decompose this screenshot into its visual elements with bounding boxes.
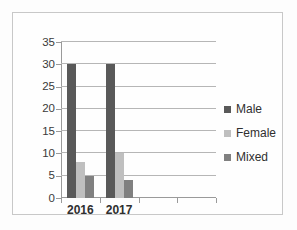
bars-layer [61, 42, 216, 198]
y-axis-tick-5 [56, 176, 61, 177]
legend-label: Female [236, 127, 276, 139]
bar-female-2016[interactable] [76, 162, 85, 198]
y-axis-tick-30 [56, 64, 61, 65]
bar-group [61, 42, 100, 198]
y-axis-label-0: 0 [29, 193, 55, 205]
legend-swatch-female-icon [224, 130, 231, 137]
y-axis-label-20: 20 [29, 103, 55, 115]
y-axis-label-35: 35 [29, 37, 55, 49]
bar-group [177, 42, 216, 198]
bar-male-2016[interactable] [67, 64, 76, 198]
x-axis-tick-3 [177, 198, 178, 203]
legend-item-male[interactable]: Male [224, 97, 290, 121]
y-axis-tick-20 [56, 109, 61, 110]
y-axis-tick-10 [56, 153, 61, 154]
x-axis-tick-2 [139, 198, 140, 203]
plot-area [61, 42, 216, 198]
screenshot-canvas: 05101520253035 20162017 MaleFemaleMixed [0, 0, 297, 230]
x-axis-tick-1 [100, 198, 101, 203]
bar-mixed-2016[interactable] [85, 176, 94, 198]
legend-swatch-mixed-icon [224, 154, 231, 161]
legend-item-female[interactable]: Female [224, 121, 290, 145]
x-axis-label-2017: 2017 [100, 204, 139, 217]
legend-label: Male [236, 103, 262, 115]
x-axis-tick-0 [61, 198, 62, 203]
x-axis-label-2016: 2016 [61, 204, 100, 217]
y-axis-label-10: 10 [29, 148, 55, 160]
chart-legend: MaleFemaleMixed [224, 97, 290, 169]
y-axis-tick-15 [56, 131, 61, 132]
legend-label: Mixed [236, 151, 268, 163]
y-axis-tick-0 [56, 198, 61, 199]
legend-swatch-male-icon [224, 106, 231, 113]
y-axis-tick-35 [56, 42, 61, 43]
y-axis-label-30: 30 [29, 59, 55, 71]
y-axis-tick-25 [56, 87, 61, 88]
x-axis-labels: 20162017 [61, 204, 217, 224]
y-axis-labels: 05101520253035 [25, 42, 55, 198]
y-axis-label-5: 5 [29, 170, 55, 182]
bar-mixed-2017[interactable] [124, 180, 133, 198]
bar-female-2017[interactable] [115, 153, 124, 198]
bar-group [100, 42, 139, 198]
bar-male-2017[interactable] [106, 64, 115, 198]
y-axis-label-15: 15 [29, 126, 55, 138]
bar-group [139, 42, 178, 198]
chart-frame: 05101520253035 20162017 MaleFemaleMixed [12, 12, 283, 215]
legend-item-mixed[interactable]: Mixed [224, 145, 290, 169]
x-axis-tick-4 [216, 198, 217, 203]
y-axis-label-25: 25 [29, 81, 55, 93]
